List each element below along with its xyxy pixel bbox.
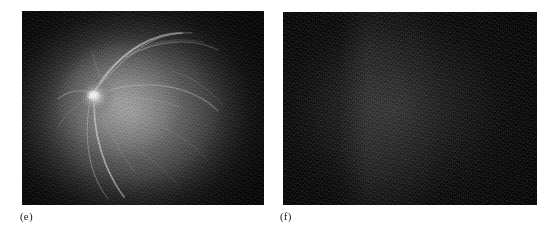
- panel-e-caption: (e): [20, 210, 33, 222]
- panel-f-caption: (f): [280, 210, 292, 222]
- figure-root: (e) (f): [0, 0, 550, 235]
- panel-f-vignette: [283, 12, 537, 205]
- panel-e-vignette: [22, 11, 264, 205]
- figure-panel-e: [22, 11, 264, 205]
- figure-panel-f: [283, 12, 537, 205]
